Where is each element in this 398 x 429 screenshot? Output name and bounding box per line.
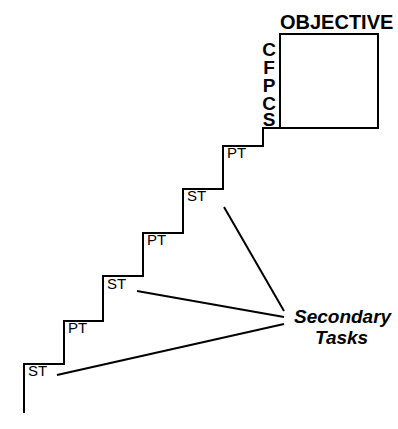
- staircase-path: [24, 128, 378, 412]
- objective-box: [280, 34, 378, 128]
- step-label-step-6: PT: [227, 144, 246, 161]
- objective-title: OBJECTIVE: [280, 11, 393, 33]
- leader-line-upper: [224, 207, 284, 311]
- diagram-canvas: ST PT ST PT ST PT OBJECTIVE C F P C S Se…: [0, 0, 398, 429]
- step-label-step-4: PT: [147, 231, 166, 248]
- staircase-objective-diagram: ST PT ST PT ST PT OBJECTIVE C F P C S Se…: [0, 0, 398, 429]
- secondary-tasks-line-2: Tasks: [315, 327, 368, 348]
- step-label-step-1: ST: [28, 362, 47, 379]
- leader-line-lower: [57, 324, 284, 375]
- step-label-step-2: PT: [68, 319, 87, 336]
- step-label-step-5: ST: [187, 187, 206, 204]
- step-label-step-3: ST: [107, 275, 126, 292]
- objective-letter-s: S: [263, 109, 276, 130]
- leader-line-middle: [137, 291, 284, 317]
- secondary-tasks-line-1: Secondary: [294, 306, 393, 327]
